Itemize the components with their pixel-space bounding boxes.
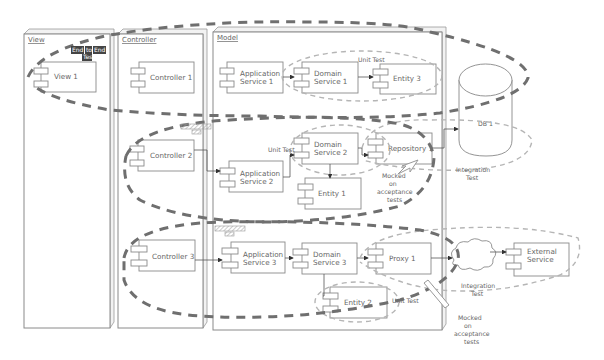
svg-text:Repository 1: Repository 1 xyxy=(388,144,433,153)
svg-text:Integration: Integration xyxy=(456,166,490,174)
svg-text:Controller 1: Controller 1 xyxy=(150,73,192,82)
svg-text:Test: Test xyxy=(470,290,484,297)
component-proxy-1: Proxy 1 xyxy=(368,243,431,274)
component-application-service-3: Application Service 3 xyxy=(222,242,285,273)
svg-text:Entity 3: Entity 3 xyxy=(393,74,421,83)
component-entity-2: Entity 2 xyxy=(323,287,387,318)
svg-text:Proxy 1: Proxy 1 xyxy=(389,254,416,263)
svg-text:Service 1: Service 1 xyxy=(314,77,347,86)
svg-text:Service 3: Service 3 xyxy=(313,258,346,267)
component-external-service: External Service xyxy=(506,243,569,276)
svg-text:acceptance: acceptance xyxy=(377,188,413,196)
svg-text:on: on xyxy=(464,322,472,329)
svg-text:to: to xyxy=(86,46,92,53)
svg-text:End: End xyxy=(72,46,84,53)
svg-text:Unit Test: Unit Test xyxy=(358,56,385,63)
component-domain-service-3: Domain Service 3 xyxy=(293,243,357,274)
package-model-title: Model xyxy=(217,34,238,42)
component-view-1: View 1 xyxy=(34,62,96,92)
component-application-service-2: Application Service 2 xyxy=(220,161,283,192)
component-entity-3: Entity 3 xyxy=(373,64,436,94)
svg-text:Service 2: Service 2 xyxy=(314,148,347,157)
svg-text:Test: Test xyxy=(465,174,479,181)
package-controller-title: Controller xyxy=(122,36,157,44)
integration-test-label-db: Integration Test xyxy=(456,166,490,181)
svg-text:Test: Test xyxy=(82,53,95,60)
svg-text:Service 3: Service 3 xyxy=(243,258,276,267)
svg-text:Integration: Integration xyxy=(461,282,495,290)
db1-cylinder: DB 1 xyxy=(459,64,512,156)
architecture-diagram: View Controller Model DB 1 View 1 Contro… xyxy=(0,0,604,360)
svg-text:Controller 3: Controller 3 xyxy=(152,252,194,261)
svg-text:Service: Service xyxy=(527,255,554,264)
component-controller-3: Controller 3 xyxy=(131,240,195,271)
component-domain-service-2: Domain Service 2 xyxy=(294,133,358,164)
component-application-service-1: Application Service 1 xyxy=(220,62,283,93)
svg-text:View 1: View 1 xyxy=(54,72,78,81)
svg-text:Unit Test: Unit Test xyxy=(268,146,295,153)
component-controller-1: Controller 1 xyxy=(131,62,194,93)
svg-text:Service 1: Service 1 xyxy=(240,77,273,86)
svg-text:End: End xyxy=(94,46,106,53)
component-entity-1: Entity 1 xyxy=(298,178,361,209)
component-controller-2: Controller 2 xyxy=(130,140,194,171)
svg-text:Mocked: Mocked xyxy=(382,172,406,179)
svg-text:Controller 2: Controller 2 xyxy=(150,151,192,160)
svg-text:acceptance: acceptance xyxy=(454,330,490,338)
svg-text:on: on xyxy=(389,180,397,187)
svg-text:tests: tests xyxy=(387,196,402,203)
svg-text:tests: tests xyxy=(464,338,479,345)
svg-text:Entity 1: Entity 1 xyxy=(318,189,346,198)
component-domain-service-1: Domain Service 1 xyxy=(294,62,358,93)
svg-text:Mocked: Mocked xyxy=(458,314,482,321)
package-view-title: View xyxy=(28,36,45,44)
svg-text:Service 2: Service 2 xyxy=(240,177,273,186)
